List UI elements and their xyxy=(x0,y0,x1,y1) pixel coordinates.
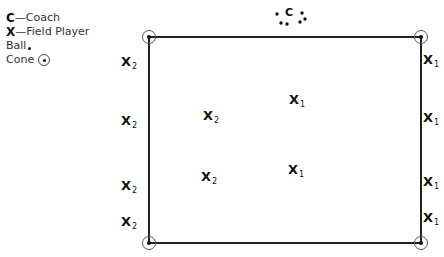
player-team-number: 2 xyxy=(132,62,137,71)
player-marker-inner-team2: X2 xyxy=(203,108,219,125)
ball-icon xyxy=(300,11,303,14)
player-marker-right-side: X1 xyxy=(423,174,439,191)
ball-icon xyxy=(275,12,278,15)
player-marker-left-side: X2 xyxy=(121,113,137,130)
player-team-number: 2 xyxy=(132,121,137,130)
player-symbol: X xyxy=(121,214,131,229)
player-symbol: X xyxy=(423,52,433,67)
player-marker-left-side: X2 xyxy=(121,214,137,231)
ball-icon xyxy=(303,17,306,20)
ball-icon xyxy=(285,22,288,25)
ball-icon xyxy=(298,20,301,23)
player-team-number: 2 xyxy=(212,177,217,186)
player-team-number: 1 xyxy=(299,170,304,179)
player-team-number: 1 xyxy=(434,118,439,127)
ball-icon xyxy=(279,21,282,24)
player-marker-inner-team1: X1 xyxy=(288,162,304,179)
player-team-number: 2 xyxy=(214,116,219,125)
player-symbol: X xyxy=(423,210,433,225)
field-boundary xyxy=(149,37,421,243)
player-symbol: X xyxy=(423,110,433,125)
coach-marker: C xyxy=(285,6,293,19)
player-marker-left-side: X2 xyxy=(121,178,137,195)
player-symbol: X xyxy=(121,54,131,69)
player-symbol: X xyxy=(203,108,213,123)
player-marker-inner-team1: X1 xyxy=(289,92,305,109)
player-team-number: 1 xyxy=(434,182,439,191)
field-diagram xyxy=(0,0,444,257)
player-symbol: X xyxy=(288,162,298,177)
player-symbol: X xyxy=(121,178,131,193)
player-team-number: 1 xyxy=(434,218,439,227)
player-marker-left-side: X2 xyxy=(121,54,137,71)
player-team-number: 1 xyxy=(434,60,439,69)
player-marker-right-side: X1 xyxy=(423,52,439,69)
player-team-number: 1 xyxy=(300,100,305,109)
player-team-number: 2 xyxy=(132,222,137,231)
player-team-number: 2 xyxy=(132,186,137,195)
player-symbol: X xyxy=(423,174,433,189)
player-marker-right-side: X1 xyxy=(423,110,439,127)
player-symbol: X xyxy=(289,92,299,107)
player-symbol: X xyxy=(201,169,211,184)
player-marker-inner-team2: X2 xyxy=(201,169,217,186)
player-symbol: X xyxy=(121,113,131,128)
player-marker-right-side: X1 xyxy=(423,210,439,227)
